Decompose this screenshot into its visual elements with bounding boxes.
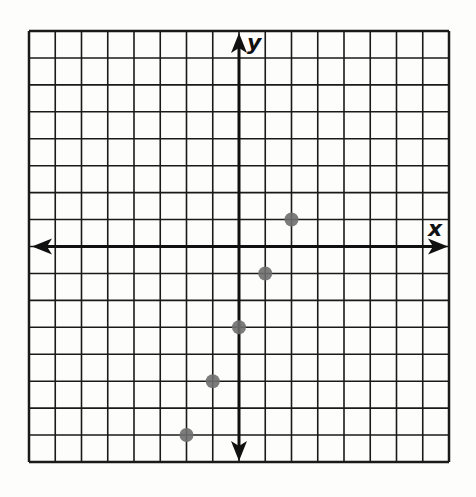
axes	[32, 33, 448, 461]
data-point	[258, 266, 272, 280]
data-point	[285, 213, 299, 227]
coordinate-grid: x y	[0, 0, 476, 497]
y-axis-label: y	[247, 30, 263, 55]
data-point	[180, 428, 194, 442]
x-axis-label: x	[427, 216, 443, 241]
data-point	[206, 374, 220, 388]
data-point	[232, 320, 246, 334]
